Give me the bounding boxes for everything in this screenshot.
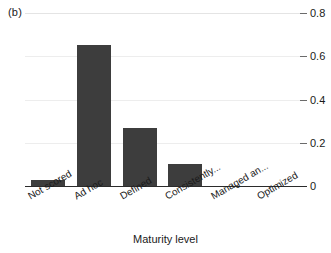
y-axis-tick-label: 0.6 [310, 50, 325, 62]
bar-chart-figure: (b) 00.20.40.60.8 Not scoredAd hocDefine… [0, 0, 331, 253]
y-axis-tick [300, 143, 307, 144]
y-axis-tick-label: 0.4 [310, 94, 325, 106]
y-axis-tick-label: 0 [310, 180, 316, 192]
y-axis-tick [300, 13, 307, 14]
gridline [25, 143, 300, 144]
panel-label: (b) [8, 6, 22, 18]
gridline [25, 13, 300, 14]
y-axis-tick [300, 56, 307, 57]
y-axis-tick [300, 100, 307, 101]
bar [77, 45, 111, 186]
gridline [25, 56, 300, 57]
gridline [25, 100, 300, 101]
y-axis-tick-label: 0.2 [310, 137, 325, 149]
y-axis-tick [300, 186, 307, 187]
bar [123, 128, 157, 186]
y-axis-tick-label: 0.8 [310, 7, 325, 19]
plot-area [25, 13, 300, 186]
x-axis-title: Maturity level [0, 233, 331, 245]
